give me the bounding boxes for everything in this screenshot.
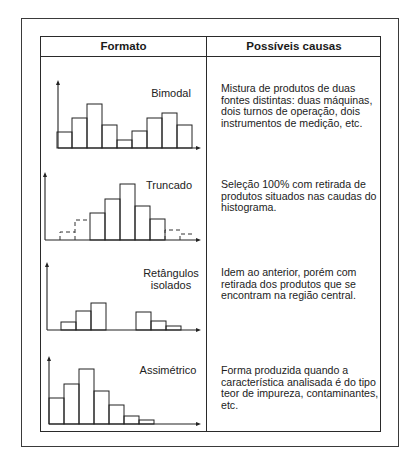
shape-label-line2: isolados [139,279,203,291]
histogram-retangulos-isolados: Retângulos isolados [41,245,206,339]
histogram-bar [94,391,109,424]
table-row-bimodal: Bimodal Mistura de produtos de duas font… [41,57,380,151]
histogram-bar [105,199,120,240]
table-header: Formato Possíveis causas [41,37,380,57]
cause-text: Seleção 100% com retirada de produtos si… [221,179,379,214]
shape-label: Truncado [139,179,199,191]
histogram-bar [147,118,162,148]
shape-label: Assimétrico [135,364,201,376]
histogram-bar [166,326,181,330]
histogram-bar [76,311,91,330]
histogram-bar [151,321,166,330]
histogram-bar [117,140,132,148]
header-possible-causes: Possíveis causas [207,37,381,56]
histogram-truncado: Truncado [41,151,206,245]
shape-label: Retângulos isolados [139,267,203,291]
cause-text: Idem ao anterior, porém com retirada dos… [221,267,379,302]
histogram-bar [150,219,165,240]
histogram-bar [60,232,75,240]
shape-label: Bimodal [141,87,201,99]
histogram-bar [139,420,154,424]
histogram-bar [132,131,147,148]
histogram-bar [72,118,87,148]
histogram-bimodal: Bimodal [41,57,206,151]
histogram-bar [165,230,180,240]
histogram-bar [87,104,102,148]
histogram-bar [180,234,195,240]
histogram-bar [102,125,117,148]
histogram-bar [64,384,79,424]
shape-label-line1: Retângulos [139,267,203,279]
histogram-assimetrico: Assimétrico [41,339,206,431]
table-row-assimetrico: Assimétrico Forma produzida quando a car… [41,339,380,431]
histogram-bar [120,184,135,240]
table-row-truncado: Truncado Seleção 100% com retirada de pr… [41,151,380,245]
histogram-bar [75,220,90,240]
histogram-bar [49,398,64,424]
table-row-retangulos-isolados: Retângulos isolados Idem ao anterior, po… [41,245,380,339]
histogram-bar [136,312,151,330]
cause-text: Mistura de produtos de duas fontes disti… [221,83,379,129]
cause-text: Forma produzida quando a característica … [221,365,379,411]
histogram-bar [90,213,105,240]
histogram-bar [57,132,72,148]
histogram-bar [109,405,124,424]
histogram-bar [124,416,139,424]
histogram-bar [135,206,150,240]
histogram-bar [91,303,106,330]
header-format: Formato [41,37,206,56]
histogram-bar [61,322,76,330]
histogram-bar [79,369,94,424]
histogram-bar [162,113,177,148]
histogram-bar [177,125,192,148]
histogram-shapes-table: Formato Possíveis causas Bimodal Mistura… [40,36,381,432]
